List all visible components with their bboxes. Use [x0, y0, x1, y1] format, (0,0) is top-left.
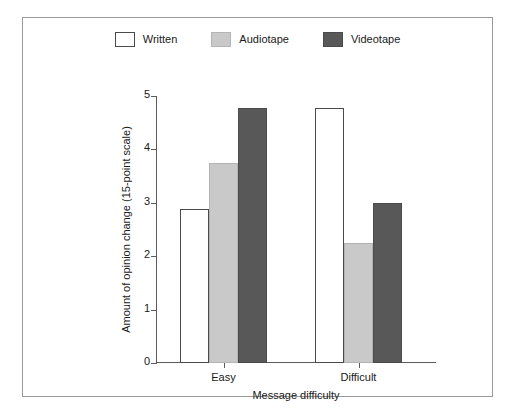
y-axis-title-text: Amount of opinion change (15-point scale… [121, 126, 132, 333]
figure-frame: Written Audiotape Videotape Amount of op… [22, 17, 493, 397]
y-axis-line [156, 96, 157, 363]
bar-written-easy [180, 209, 209, 363]
bar-written-difficult [315, 108, 344, 363]
x-axis-title: Message difficulty [156, 390, 436, 401]
bar-audiotape-difficult [344, 243, 373, 363]
y-tick-mark [151, 310, 157, 311]
y-tick-mark [151, 363, 157, 364]
y-tick-label: 2 [144, 249, 150, 260]
legend-label-videotape: Videotape [351, 34, 400, 45]
y-tick-label: 0 [144, 356, 150, 367]
legend-swatch-written-icon [115, 32, 135, 47]
chart-legend: Written Audiotape Videotape [23, 32, 492, 47]
y-tick-mark [151, 256, 157, 257]
bar-audiotape-easy [209, 163, 238, 363]
x-tick-mark [359, 363, 360, 368]
x-axis-label-difficult: Difficult [341, 372, 377, 383]
legend-label-audiotape: Audiotape [239, 34, 289, 45]
y-axis-title: Amount of opinion change (15-point scale… [118, 96, 134, 363]
y-tick-label: 3 [144, 196, 150, 207]
y-tick-mark [151, 149, 157, 150]
legend-swatch-videotape-icon [323, 32, 343, 47]
bar-videotape-easy [238, 108, 267, 363]
legend-label-written: Written [143, 34, 178, 45]
x-axis-label-easy: Easy [211, 372, 235, 383]
y-tick-label: 4 [144, 142, 150, 153]
y-tick-mark [151, 96, 157, 97]
legend-item-audiotape: Audiotape [211, 32, 289, 47]
y-tick-label: 1 [144, 303, 150, 314]
legend-swatch-audiotape-icon [211, 32, 231, 47]
bar-videotape-difficult [373, 203, 402, 363]
legend-item-written: Written [115, 32, 178, 47]
y-tick-mark [151, 203, 157, 204]
figure: Written Audiotape Videotape Amount of op… [0, 0, 515, 415]
legend-item-videotape: Videotape [323, 32, 400, 47]
plot-area: 012345 EasyDifficult [156, 96, 436, 363]
x-tick-mark [224, 363, 225, 368]
y-tick-label: 5 [144, 89, 150, 100]
